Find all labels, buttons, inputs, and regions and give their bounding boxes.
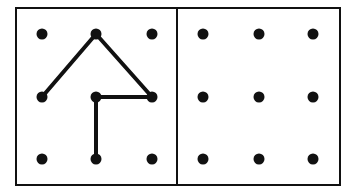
left-line-segment-0 [42,34,96,97]
right-dot-r1-c0 [198,92,209,103]
panel-frames [16,8,340,185]
right-dot-r1-c1 [254,92,265,103]
right-dot-r1-c2 [308,92,319,103]
left-dot-r0-c2 [147,29,158,40]
right-dot-r2-c0 [198,154,209,165]
left-dot-r2-c0 [37,154,48,165]
left-dot-r1-c0 [37,92,48,103]
left-dot-r1-c2 [147,92,158,103]
right-dot-r2-c2 [308,154,319,165]
left-dot-r2-c1 [91,154,102,165]
right-dot-r0-c0 [198,29,209,40]
dot-grid-diagram [0,0,343,189]
left-dot-r2-c2 [147,154,158,165]
right-dot-r2-c1 [254,154,265,165]
left-dot-r0-c1 [91,29,102,40]
right-dot-grid [198,29,319,165]
left-dot-r0-c0 [37,29,48,40]
left-line-segment-1 [96,34,152,97]
left-dot-r1-c1 [91,92,102,103]
right-dot-r0-c2 [308,29,319,40]
right-dot-r0-c1 [254,29,265,40]
